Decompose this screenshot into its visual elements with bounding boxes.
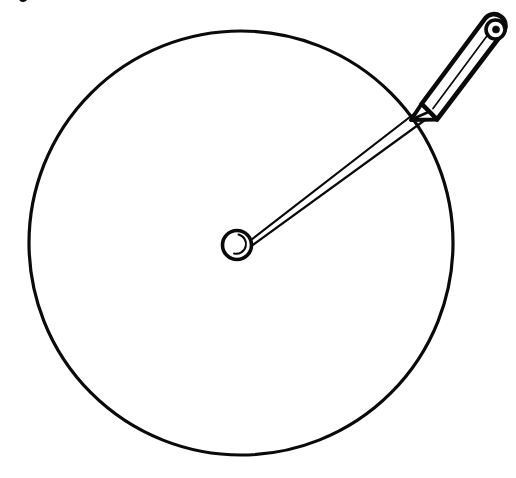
pencil-highlight-line <box>433 31 491 109</box>
pencil-cap-hole-icon <box>492 26 499 33</box>
figure-caption-fragment: 9 <box>18 0 44 5</box>
compass-arm-line-lower <box>250 112 436 247</box>
compass-diagram <box>0 0 516 478</box>
pencil <box>411 14 506 120</box>
figure-canvas: 9 <box>0 0 516 478</box>
compass-arm <box>250 103 436 247</box>
compass-pivot <box>223 231 252 260</box>
pivot-ring <box>223 231 252 260</box>
compass-arm-line-upper <box>251 103 428 240</box>
